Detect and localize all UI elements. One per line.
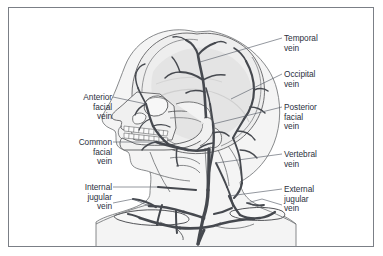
label-occipital-vein: Occipital vein [284, 70, 350, 89]
label-posterior-facial-vein: Posterior facial vein [284, 103, 350, 132]
label-internal-jugular-vein: Internal jugular vein [60, 183, 112, 212]
anatomy-figure: Anterior facial vein Common facial vein … [0, 0, 383, 256]
label-common-facial-vein: Common facial vein [56, 138, 112, 167]
label-temporal-vein: Temporal vein [284, 34, 350, 53]
label-external-jugular-vein: External jugular vein [284, 185, 350, 214]
label-vertebral-vein: Vertebral vein [284, 150, 350, 169]
label-anterior-facial-vein: Anterior facial vein [60, 93, 112, 122]
